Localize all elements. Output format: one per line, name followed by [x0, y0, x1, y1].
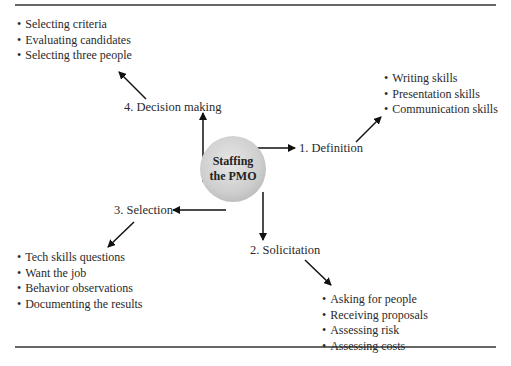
list-item: Assessing costs	[322, 339, 428, 355]
step-definition-label: 1. Definition	[299, 141, 363, 156]
list-item: Selecting three people	[17, 48, 132, 64]
center-node-line2: the PMO	[210, 169, 257, 184]
list-item: Writing skills	[384, 71, 498, 87]
list-item: Documenting the results	[17, 297, 143, 313]
definition-items: Writing skills Presentation skills Commu…	[384, 71, 498, 118]
list-item: Behavior observations	[17, 281, 143, 297]
solicitation-items: Asking for people Receiving proposals As…	[322, 292, 428, 354]
list-item: Assessing risk	[322, 323, 428, 339]
list-item: Want the job	[17, 266, 143, 282]
step-solicitation-label: 2. Solicitation	[250, 243, 320, 258]
decision-making-items: Selecting criteria Evaluating candidates…	[17, 17, 132, 64]
list-item: Receiving proposals	[322, 308, 428, 324]
selection-items: Tech skills questions Want the job Behav…	[17, 250, 143, 312]
center-node-staffing-the-pmo: Staffing the PMO	[200, 136, 266, 202]
list-item: Evaluating candidates	[17, 33, 132, 49]
list-item: Communication skills	[384, 102, 498, 118]
step-selection-label: 3. Selection	[114, 203, 173, 218]
center-node-line1: Staffing	[213, 154, 254, 169]
list-item: Tech skills questions	[17, 250, 143, 266]
step-decision-making-label: 4. Decision making	[124, 100, 222, 115]
list-item: Asking for people	[322, 292, 428, 308]
list-item: Presentation skills	[384, 87, 498, 103]
list-item: Selecting criteria	[17, 17, 132, 33]
